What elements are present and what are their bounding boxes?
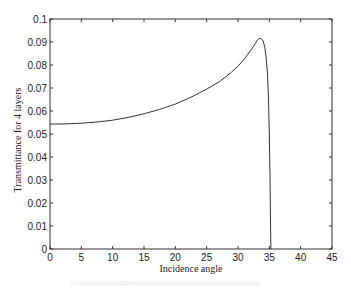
- y-tick-label: 0.04: [28, 152, 48, 163]
- y-tick-label: 0.08: [28, 60, 48, 71]
- plot-frame: [50, 19, 332, 249]
- axis-ticks: [50, 19, 332, 249]
- x-tick-label: 10: [107, 252, 119, 263]
- x-tick-labels: 051015202530354045: [47, 252, 338, 263]
- x-tick-label: 40: [295, 252, 307, 263]
- y-tick-label: 0.1: [33, 14, 47, 25]
- x-tick-label: 45: [326, 252, 338, 263]
- x-axis-label: Incidence angle: [159, 263, 223, 274]
- y-tick-label: 0.07: [28, 83, 48, 94]
- y-tick-labels: 00.010.020.030.040.050.060.070.080.090.1: [28, 14, 48, 255]
- x-tick-label: 25: [201, 252, 213, 263]
- y-tick-label: 0.09: [28, 37, 48, 48]
- line-chart: 00.010.020.030.040.050.060.070.080.090.1…: [0, 0, 351, 290]
- transmittance-curve: [50, 38, 271, 249]
- x-tick-label: 35: [264, 252, 276, 263]
- y-axis-label: Transmittance for 4 layers: [12, 87, 23, 192]
- y-tick-label: 0.02: [28, 198, 48, 209]
- x-tick-label: 0: [47, 252, 53, 263]
- x-tick-label: 30: [232, 252, 244, 263]
- x-tick-label: 5: [79, 252, 85, 263]
- x-tick-label: 15: [138, 252, 150, 263]
- y-tick-label: 0.05: [28, 129, 48, 140]
- figure-caption-faint: [70, 281, 260, 286]
- x-tick-label: 20: [170, 252, 182, 263]
- y-tick-label: 0.03: [28, 175, 48, 186]
- y-tick-label: 0.06: [28, 106, 48, 117]
- y-tick-label: 0.01: [28, 221, 48, 232]
